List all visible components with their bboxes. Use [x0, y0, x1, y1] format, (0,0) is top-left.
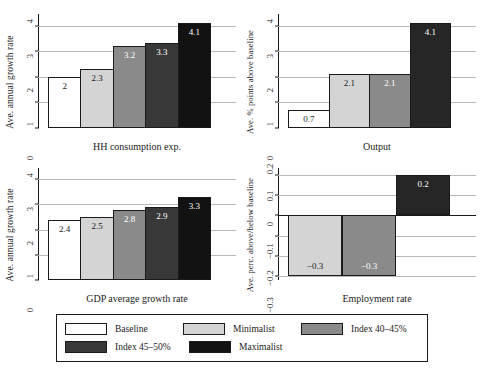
bar-index-40-45[interactable]: 2.8 [113, 210, 146, 280]
bar-maximalist[interactable]: 4.1 [410, 23, 452, 128]
bar-group: 2.4 2.5 2.8 2.9 3.3 [48, 168, 210, 280]
bar-slot-index-40-45: −0.3 [342, 168, 396, 280]
plot-area: 0.7 2.1 2.1 4.1 [278, 14, 476, 128]
legend-label: Index 40–45% [351, 324, 407, 334]
x-axis-title: GDP average growth rate [38, 293, 236, 304]
bar-value-label: 2 [49, 82, 80, 91]
panel-gdp-growth: Ave. annual growth rate 0 1 2 3 4 2.4 [2, 160, 240, 310]
bar-group: −0.3 −0.3 0.2 [288, 168, 450, 280]
bar-minimalist[interactable]: 2.5 [80, 217, 113, 280]
bar-value-label: 3.3 [179, 202, 210, 211]
bar-minimalist[interactable]: −0.3 [288, 215, 342, 276]
legend-swatch-icon [189, 341, 231, 353]
y-axis-tick-labels: 0 1 2 3 4 [256, 6, 276, 158]
bar-value-label: −0.3 [289, 262, 341, 271]
bar-value-label: 3.3 [146, 48, 177, 57]
legend-label: Maximalist [239, 342, 282, 352]
y-axis-line [278, 168, 279, 280]
legend-swatch-icon [183, 323, 225, 335]
bar-index-40-45[interactable]: −0.3 [342, 215, 396, 276]
legend-swatch-icon [301, 323, 343, 335]
legend-item-baseline[interactable]: Baseline [65, 323, 183, 335]
bar-slot-minimalist: −0.3 [288, 168, 342, 280]
bar-index-40-45[interactable]: 2.1 [369, 74, 411, 128]
figure-root: Ave. annual growth rate 0 1 2 3 4 2 [0, 0, 480, 370]
bar-value-label: 0.7 [289, 115, 329, 124]
y-axis-tick-labels: −0.3 −0.2 −0.1 0 0.1 0.2 [256, 160, 276, 310]
bar-slot-maximalist: 0.2 [396, 168, 450, 280]
legend-label: Minimalist [233, 324, 275, 334]
bar-value-label: 2.1 [370, 79, 410, 88]
bar-baseline[interactable]: 0.7 [288, 110, 330, 128]
y-tick-mark [275, 128, 279, 129]
bar-index-45-50[interactable]: 3.3 [145, 43, 178, 128]
panel-hh-consumption: Ave. annual growth rate 0 1 2 3 4 2 [2, 6, 240, 158]
legend-label: Baseline [115, 324, 148, 334]
y-axis-tick-labels: 0 1 2 3 4 [16, 160, 36, 310]
legend-item-minimalist[interactable]: Minimalist [183, 323, 301, 335]
bar-value-label: 2.9 [146, 212, 177, 221]
legend-item-index-45-50[interactable]: Index 45–50% [65, 341, 189, 353]
bar-minimalist[interactable]: 2.1 [329, 74, 371, 128]
bar-maximalist[interactable]: 0.2 [396, 175, 450, 215]
bar-group: 0.7 2.1 2.1 4.1 [288, 14, 450, 128]
bar-maximalist[interactable]: 4.1 [178, 23, 211, 128]
x-axis-title: Output [278, 141, 476, 152]
plot-area: 2 2.3 3.2 3.3 4.1 [38, 14, 236, 128]
legend-swatch-icon [65, 341, 107, 353]
bar-value-label: 4.1 [179, 28, 210, 37]
bar-value-label: 2.1 [330, 79, 370, 88]
bar-value-label: 2.8 [114, 215, 145, 224]
plot-area: 2.4 2.5 2.8 2.9 3.3 [38, 168, 236, 280]
legend-label: Index 45–50% [115, 342, 171, 352]
bar-baseline[interactable]: 2 [48, 77, 81, 128]
bar-value-label: 4.1 [411, 28, 451, 37]
plot-area: −0.3 −0.3 0.2 [278, 168, 476, 280]
legend-swatch-icon [65, 323, 107, 335]
bar-baseline[interactable]: 2.4 [48, 220, 81, 280]
bar-value-label: 2.4 [49, 225, 80, 234]
bar-index-40-45[interactable]: 3.2 [113, 46, 146, 128]
y-axis-line [38, 168, 39, 280]
legend-item-index-40-45[interactable]: Index 40–45% [301, 323, 419, 335]
bar-minimalist[interactable]: 2.3 [80, 69, 113, 128]
bar-value-label: 2.5 [81, 222, 112, 231]
bar-value-label: 3.2 [114, 51, 145, 60]
bar-group: 2 2.3 3.2 3.3 4.1 [48, 14, 210, 128]
panel-employment-rate: Ave. perc. above/below baseline −0.3 −0.… [242, 160, 480, 310]
y-tick-mark [35, 280, 39, 281]
legend-row: Baseline Minimalist Index 40–45% [65, 320, 419, 338]
legend-item-maximalist[interactable]: Maximalist [189, 341, 313, 353]
bar-index-45-50[interactable]: 2.9 [145, 207, 178, 280]
x-axis-title: Employment rate [278, 293, 476, 304]
bar-value-label: 0.2 [397, 180, 449, 189]
x-axis-title: HH consumption exp. [38, 141, 236, 152]
bar-maximalist[interactable]: 3.3 [178, 197, 211, 280]
y-axis-line [38, 14, 39, 128]
y-axis-line [278, 14, 279, 128]
bar-value-label: 2.3 [81, 74, 112, 83]
panel-output: Ave. % points above baseline 0 1 2 3 4 0… [242, 6, 480, 158]
y-axis-tick-labels: 0 1 2 3 4 [16, 6, 36, 158]
y-tick-mark [35, 128, 39, 129]
legend: Baseline Minimalist Index 40–45% Index 4… [56, 314, 428, 362]
bar-value-label: −0.3 [343, 262, 395, 271]
legend-row: Index 45–50% Maximalist [65, 338, 419, 356]
